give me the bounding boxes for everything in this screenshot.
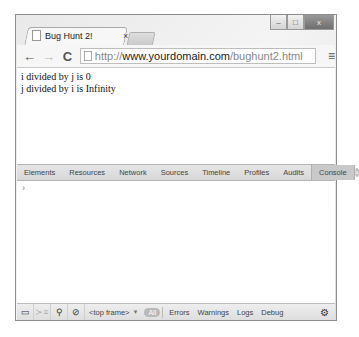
frame-selector[interactable]: <top frame> ▼	[85, 308, 142, 317]
gear-icon[interactable]: ⚙	[320, 307, 329, 318]
devtools-tabbar: Elements Resources Network Sources Timel…	[17, 164, 335, 181]
page-icon	[84, 51, 92, 61]
browser-toolbar: ← → C http://www.yourdomain.com/bughunt2…	[17, 45, 335, 68]
console-prompt-icon: ›	[22, 183, 25, 193]
tab-profiles[interactable]: Profiles	[237, 165, 276, 180]
clear-console-icon[interactable]: ⊘	[68, 304, 85, 320]
tab-title: Bug Hunt 2!	[45, 31, 93, 41]
browser-window: – □ x Bug Hunt 2! × ← → C http://www.you…	[15, 14, 337, 321]
tab-elements[interactable]: Elements	[17, 165, 62, 180]
menu-icon[interactable]: ≡	[328, 49, 335, 63]
tab-strip: Bug Hunt 2! ×	[20, 25, 330, 45]
tab-console[interactable]: Console	[311, 165, 355, 180]
url-scheme: http://	[95, 50, 123, 62]
show-drawer-icon[interactable]: ≻≡	[34, 304, 51, 320]
filter-logs[interactable]: Logs	[233, 308, 257, 317]
filter-warnings[interactable]: Warnings	[194, 308, 233, 317]
tab-content: Bug Hunt 2!	[32, 30, 93, 41]
filter-debug[interactable]: Debug	[257, 308, 287, 317]
reload-icon[interactable]: C	[61, 49, 74, 64]
filter-all[interactable]: All	[144, 308, 160, 317]
devtools-statusbar: ▭ ≻≡ ⚲ ⊘ <top frame> ▼ All Errors Warnin…	[17, 303, 335, 320]
devtools-close-icon[interactable]: ×	[355, 168, 359, 177]
frame-label: <top frame>	[89, 308, 129, 317]
dock-icon[interactable]: ▭	[17, 304, 34, 320]
page-icon	[32, 30, 41, 41]
filter-errors[interactable]: Errors	[165, 308, 193, 317]
console-panel[interactable]: ›	[17, 181, 335, 303]
url-path: /bughunt2.html	[230, 50, 303, 62]
tab-resources[interactable]: Resources	[62, 165, 112, 180]
new-tab-button[interactable]	[127, 32, 156, 46]
tab-sources[interactable]: Sources	[154, 165, 196, 180]
tab-timeline[interactable]: Timeline	[195, 165, 237, 180]
url-host: www.yourdomain.com	[122, 50, 230, 62]
tab-network[interactable]: Network	[112, 165, 154, 180]
output-line: j divided by i is Infinity	[21, 83, 331, 95]
output-line: i divided by j is 0	[21, 71, 331, 83]
forward-icon[interactable]: →	[42, 49, 55, 64]
address-bar[interactable]: http://www.yourdomain.com/bughunt2.html	[80, 48, 316, 64]
chevron-down-icon: ▼	[132, 309, 138, 315]
back-icon[interactable]: ←	[23, 49, 36, 64]
page-content: i divided by j is 0 j divided by i is In…	[17, 68, 335, 164]
search-icon[interactable]: ⚲	[51, 304, 68, 320]
divider	[162, 307, 163, 318]
tab-audits[interactable]: Audits	[276, 165, 311, 180]
